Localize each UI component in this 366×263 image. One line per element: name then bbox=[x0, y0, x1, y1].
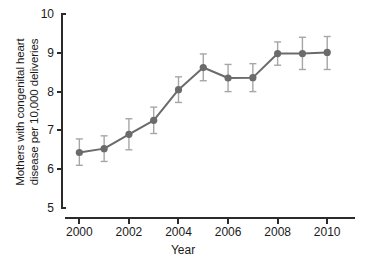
data-point-marker bbox=[249, 74, 256, 81]
data-point-marker bbox=[224, 74, 231, 81]
data-point-marker bbox=[299, 50, 306, 57]
data-point-marker bbox=[175, 86, 182, 93]
data-series-layer bbox=[0, 0, 366, 263]
data-point-marker bbox=[274, 50, 281, 57]
data-point-marker bbox=[324, 49, 331, 56]
data-point-marker bbox=[125, 131, 132, 138]
chart-figure: Mothers with congenital heart disease pe… bbox=[0, 0, 366, 263]
x-axis-title: Year bbox=[0, 243, 366, 257]
data-point-marker bbox=[101, 145, 108, 152]
data-point-marker bbox=[76, 149, 83, 156]
data-point-marker bbox=[150, 117, 157, 124]
data-point-marker bbox=[200, 64, 207, 71]
